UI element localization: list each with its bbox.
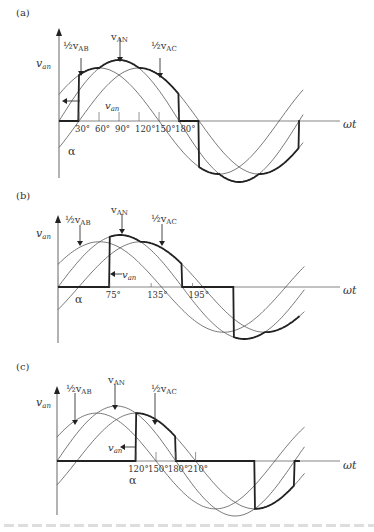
arrowhead-icon xyxy=(159,241,165,246)
label-half-vac: ½vAC xyxy=(151,213,177,226)
x-tick-label: 120° xyxy=(135,124,155,134)
arrowhead-icon xyxy=(112,405,118,410)
x-tick-label: 120° xyxy=(128,464,148,474)
panel-label: (c) xyxy=(16,361,30,372)
x-tick-label: 195° xyxy=(189,290,209,300)
label-half-vab: ½vAB xyxy=(65,214,91,227)
x-tick-label: 180° xyxy=(168,464,188,474)
waveform-diagram: (a) van ωt α van ½vAB vAN ½vAC (b) van ω… xyxy=(0,0,374,532)
arrowhead-icon xyxy=(77,241,83,246)
cropped-caption xyxy=(0,518,374,532)
x-axis-label: ωt xyxy=(343,459,357,472)
x-axis-label: ωt xyxy=(343,284,357,297)
van-label: van xyxy=(122,269,137,282)
alpha-label: α xyxy=(129,474,137,487)
alpha-label: α xyxy=(75,293,83,306)
label-van: vAN xyxy=(110,204,128,217)
panel-label: (a) xyxy=(16,7,30,18)
y-axis-arrow-icon xyxy=(56,28,62,36)
arrowhead-icon xyxy=(110,271,115,277)
label-half-vab: ½vAB xyxy=(66,383,92,396)
x-tick-label: 75° xyxy=(106,290,121,300)
alpha-label: α xyxy=(68,145,76,158)
panel-a: (a) van ωt α van ½vAB vAN ½vAC xyxy=(16,7,357,158)
y-axis-label: van xyxy=(36,227,51,241)
label-half-vab: ½vAB xyxy=(63,40,89,53)
x-tick-label: 90° xyxy=(115,124,130,134)
x-tick-label: 210° xyxy=(188,464,208,474)
y-axis-arrow-icon xyxy=(55,215,61,223)
label-van: vAN xyxy=(107,374,125,387)
x-tick-label: 150° xyxy=(148,464,168,474)
van-label: van xyxy=(105,100,120,113)
waveform-curves: 30°60°90°120°150°180°75°135°195°120°150°… xyxy=(54,28,340,516)
arrowhead-icon xyxy=(62,98,67,104)
arrowhead-icon xyxy=(119,229,125,234)
x-tick-label: 180° xyxy=(175,124,195,134)
panel-b: (b) van ωt α van ½vAB vAN ½vAC xyxy=(16,190,357,306)
x-tick-label: 150° xyxy=(155,124,175,134)
x-tick-label: 135° xyxy=(147,290,167,300)
label-van: vAN xyxy=(110,31,128,44)
y-axis-arrow-icon xyxy=(54,386,60,394)
y-axis-label: van xyxy=(36,396,51,410)
x-tick-label: 60° xyxy=(95,124,110,134)
x-axis-label: ωt xyxy=(343,118,357,131)
caption-line xyxy=(4,524,374,527)
label-half-vac: ½vAC xyxy=(151,40,177,53)
arrowhead-icon xyxy=(152,420,158,425)
panel-label: (b) xyxy=(16,190,30,201)
van-label: van xyxy=(108,442,123,455)
figure: (a) van ωt α van ½vAB vAN ½vAC (b) van ω… xyxy=(0,0,374,532)
x-tick-label: 30° xyxy=(75,124,90,134)
y-axis-label: van xyxy=(36,57,51,71)
